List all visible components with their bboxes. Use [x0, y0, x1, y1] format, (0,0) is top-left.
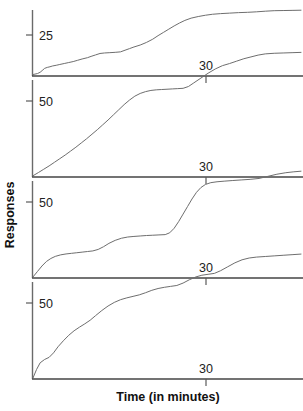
panel-3-curve [33, 171, 301, 277]
figure-canvas: 25 30 50 30 50 30 [0, 0, 303, 411]
panel-1: 25 30 [26, 10, 303, 83]
panel-4-y-tick-label-50: 50 [39, 297, 53, 311]
cumulative-record-figure: 25 30 50 30 50 30 [0, 0, 303, 411]
y-axis-title: Responses [3, 182, 17, 249]
panel-2-x-tick-label-30: 30 [199, 160, 213, 174]
panel-3-y-tick-label-50: 50 [39, 196, 53, 210]
panel-1-curve [33, 10, 301, 74]
panel-1-x-tick-label-30: 30 [199, 59, 213, 73]
panel-2-y-tick-label-50: 50 [39, 95, 53, 109]
x-axis-title: Time (in minutes) [116, 390, 219, 404]
panel-2-curve [33, 52, 301, 175]
panel-4: 50 30 [26, 254, 303, 386]
panel-3: 50 30 [26, 171, 303, 285]
panel-4-curve [33, 254, 301, 378]
panel-4-x-tick-label-30: 30 [199, 362, 213, 376]
panel-3-x-tick-label-30: 30 [199, 261, 213, 275]
panel-1-y-tick-label-25: 25 [39, 29, 53, 43]
panel-2: 50 30 [26, 52, 303, 184]
